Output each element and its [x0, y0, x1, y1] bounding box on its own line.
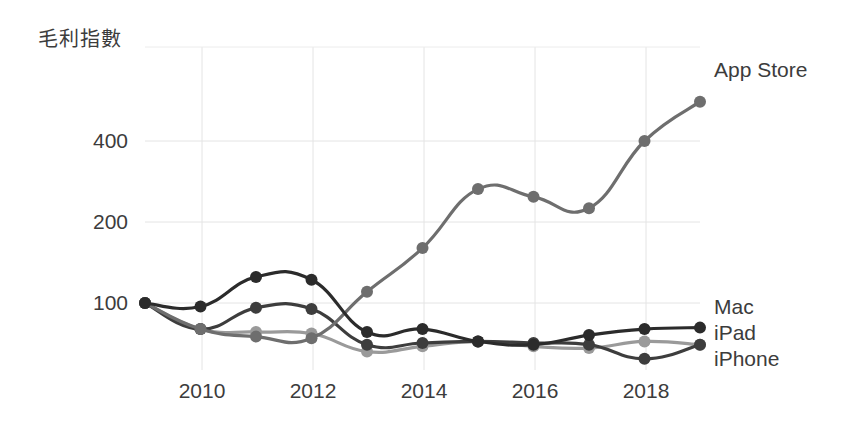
x-axis-tick-2014: 2014	[384, 379, 464, 403]
y-axis-tick-200: 200	[58, 210, 128, 234]
series-label-mac: Mac	[714, 295, 754, 319]
data-point	[583, 329, 595, 341]
x-axis-tick-2010: 2010	[162, 379, 242, 403]
series-label-app-store: App Store	[714, 58, 807, 82]
y-axis-tick-100: 100	[58, 291, 128, 315]
data-point	[417, 242, 429, 254]
data-point	[306, 303, 318, 315]
data-point	[139, 297, 151, 309]
data-point	[583, 202, 595, 214]
x-axis-tick-2012: 2012	[273, 379, 353, 403]
data-point	[417, 323, 429, 335]
data-point	[639, 335, 651, 347]
y-axis-tick-400: 400	[58, 129, 128, 153]
data-point	[528, 339, 540, 351]
data-point	[694, 322, 706, 334]
series-label-ipad: iPad	[714, 321, 756, 345]
data-point	[195, 323, 207, 335]
data-point	[694, 96, 706, 108]
data-point	[639, 323, 651, 335]
data-point	[361, 286, 373, 298]
data-point	[361, 339, 373, 351]
data-point	[306, 274, 318, 286]
data-point	[472, 335, 484, 347]
data-point	[250, 331, 262, 343]
chart-container: 毛利指數 400 200 100 2010 2012 2014 2016 201…	[0, 0, 853, 425]
data-point	[361, 326, 373, 338]
data-point	[528, 191, 540, 203]
data-point	[639, 135, 651, 147]
data-point	[417, 337, 429, 349]
x-axis-tick-2016: 2016	[495, 379, 575, 403]
series-label-iphone: iPhone	[714, 347, 779, 371]
data-series-layer	[139, 96, 706, 365]
data-point	[250, 271, 262, 283]
data-point	[639, 353, 651, 365]
data-point	[472, 183, 484, 195]
x-axis-tick-2018: 2018	[606, 379, 686, 403]
data-point	[195, 301, 207, 313]
data-point	[306, 332, 318, 344]
data-point	[250, 302, 262, 314]
data-point	[694, 339, 706, 351]
series-app-store	[139, 96, 706, 345]
